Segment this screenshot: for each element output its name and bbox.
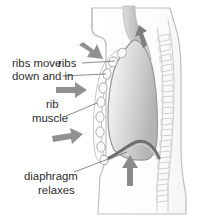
label-ribs-move-line2: down and in <box>12 71 73 83</box>
label-rib-muscle-line2: muscle <box>32 113 68 125</box>
label-rib-muscle: rib muscle <box>32 99 68 125</box>
label-ribs: ribs <box>58 58 77 70</box>
diagram-canvas: ribs move down and in ribs rib muscle di… <box>0 0 219 219</box>
leader-rib-muscle <box>66 103 97 116</box>
exhalation-diagram: ribs move down and in ribs rib muscle di… <box>0 0 219 219</box>
label-ribs-move-line1: ribs move <box>12 58 61 70</box>
rib-arrow-middle <box>56 82 87 98</box>
label-diaphragm-line1: diaphragm <box>24 171 78 183</box>
label-diaphragm-line2: relaxes <box>38 185 75 197</box>
rib-arrow-lower <box>52 128 83 144</box>
label-diaphragm: diaphragm relaxes <box>24 171 78 197</box>
rib-arrow-top <box>79 42 103 59</box>
label-rib-muscle-line1: rib <box>46 99 59 111</box>
